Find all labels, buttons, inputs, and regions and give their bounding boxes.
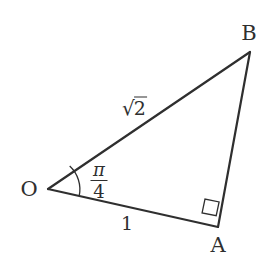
- side-label-OB-sqrt2: √ 2: [122, 97, 146, 118]
- fraction-denominator: 4: [91, 181, 106, 201]
- radicand-value: 2: [134, 97, 146, 119]
- side-AB-line: [218, 52, 250, 227]
- vertex-label-O: O: [20, 179, 37, 200]
- triangle-svg: [0, 0, 275, 276]
- right-angle-marker-icon: [202, 199, 219, 216]
- geometry-figure: O A B √ 2 1 π 4: [0, 0, 275, 276]
- fraction-numerator: π: [91, 161, 107, 180]
- vertex-label-B: B: [241, 23, 256, 44]
- radical-overbar-icon: [134, 97, 147, 98]
- vertex-label-A: A: [210, 235, 225, 256]
- angle-label-pi-over-4: π 4: [91, 161, 108, 201]
- side-label-OA-one: 1: [121, 214, 133, 233]
- side-OB-line: [48, 52, 250, 189]
